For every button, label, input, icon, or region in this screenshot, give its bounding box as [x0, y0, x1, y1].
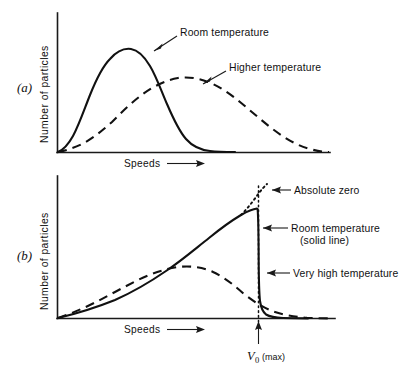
- panel-b-curve-very-high-temperature: [58, 266, 333, 318]
- panel-a-annotation-room-temperature: Room temperature: [154, 27, 269, 51]
- panel-a-tag: (a): [17, 80, 32, 95]
- panel-b-v0-qualifier: (max): [262, 352, 285, 362]
- panel-b-ylabel: Number of particles: [39, 212, 50, 310]
- panel-b-annotation-room-temperature-label: Room temperature: [291, 223, 380, 234]
- panel-a-ylabel: Number of particles: [39, 45, 50, 143]
- panel-b-curve-absolute-zero: [241, 184, 267, 215]
- panel-b-xlabel: Speeds: [124, 324, 160, 335]
- figure-container: (a) Number of particles Room temperature…: [0, 0, 399, 371]
- panel-a-curve-higher-temperature: [58, 77, 329, 152]
- panel-b-xlabel-group: Speeds: [124, 324, 205, 335]
- panel-b-annotation-room-temperature-sublabel: (solid line): [300, 235, 349, 246]
- panel-b: (b) Number of particles Absolute zero Ro…: [17, 176, 398, 365]
- panel-a-annotation-higher-temperature-label: Higher temperature: [229, 62, 321, 73]
- panel-a-xlabel: Speeds: [124, 158, 160, 169]
- panel-b-annotation-absolute-zero-label: Absolute zero: [294, 185, 360, 196]
- panel-b-curve-room-temperature: [58, 209, 308, 319]
- panel-a-annotation-room-temperature-label: Room temperature: [180, 27, 269, 38]
- panel-b-annotation-room-temperature: Room temperature (solid line): [263, 223, 380, 247]
- panel-b-annotation-absolute-zero: Absolute zero: [272, 185, 360, 196]
- panel-b-v0-subscript: 0: [255, 355, 259, 365]
- panel-a-xlabel-group: Speeds: [124, 158, 205, 169]
- panel-a-curve-room-temperature: [58, 49, 235, 152]
- maxwell-distribution-figure: (a) Number of particles Room temperature…: [0, 0, 399, 371]
- panel-a-annotation-higher-temperature: Higher temperature: [203, 62, 321, 84]
- panel-b-tag: (b): [17, 248, 32, 263]
- panel-a: (a) Number of particles Room temperature…: [17, 13, 330, 169]
- panel-b-annotation-very-high-temperature-label: Very high temperature: [293, 268, 398, 279]
- panel-b-v0-max-marker: V 0 (max): [247, 321, 285, 365]
- panel-b-annotation-very-high-temperature: Very high temperature: [267, 268, 398, 279]
